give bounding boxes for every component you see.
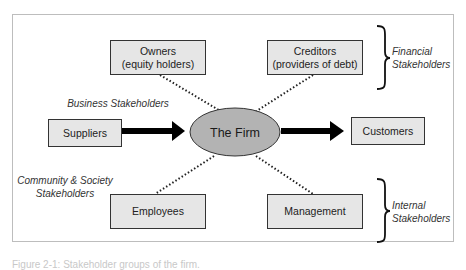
customers-label: Customers	[363, 125, 414, 137]
node-suppliers: Suppliers	[49, 120, 122, 147]
firm-label: The Firm	[210, 126, 260, 140]
suppliers-label: Suppliers	[63, 127, 107, 139]
node-creditors: Creditors (providers of debt)	[268, 41, 363, 75]
figure-caption: Figure 2-1: Stakeholder groups of the fi…	[12, 259, 200, 270]
owners-sublabel: (equity holders)	[122, 58, 194, 70]
owners-label: Owners	[140, 45, 176, 57]
management-label: Management	[284, 205, 345, 217]
node-owners: Owners (equity holders)	[111, 41, 206, 75]
community-stakeholders-label-2: Stakeholders	[36, 188, 94, 199]
financial-stakeholders-label-2: Stakeholders	[392, 59, 450, 70]
internal-stakeholders-label-2: Stakeholders	[392, 213, 450, 224]
internal-stakeholders-label: Internal	[392, 200, 426, 211]
employees-label: Employees	[132, 205, 184, 217]
node-the-firm: The Firm	[190, 108, 280, 156]
community-stakeholders-label: Community & Society	[17, 175, 114, 186]
financial-stakeholders-label: Financial	[392, 46, 433, 57]
creditors-sublabel: (providers of debt)	[272, 58, 357, 70]
business-stakeholders-label: Business Stakeholders	[67, 98, 169, 109]
node-customers: Customers	[352, 118, 425, 145]
node-employees: Employees	[111, 195, 206, 229]
node-management: Management	[268, 195, 363, 229]
creditors-label: Creditors	[294, 45, 337, 57]
